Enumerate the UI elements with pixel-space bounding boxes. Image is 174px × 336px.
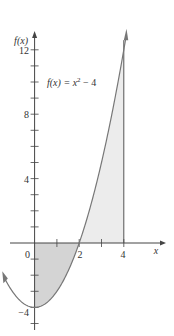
y-tick-neg4: −4 <box>18 307 29 318</box>
y-tick-4: 4 <box>24 174 29 185</box>
x-axis-label: x <box>153 245 159 256</box>
y-tick-12: 12 <box>19 45 29 56</box>
x-tick-4: 4 <box>121 249 126 260</box>
x-tick-2: 2 <box>78 249 83 260</box>
x-tick-0: 0 <box>25 249 30 260</box>
y-tick-8: 8 <box>24 109 29 120</box>
function-label: f(x) = x2 − 4 <box>47 76 96 89</box>
chart: f(x)1284−4024xf(x) = x2 − 4 <box>0 0 174 336</box>
shaded-region-below <box>35 243 80 307</box>
